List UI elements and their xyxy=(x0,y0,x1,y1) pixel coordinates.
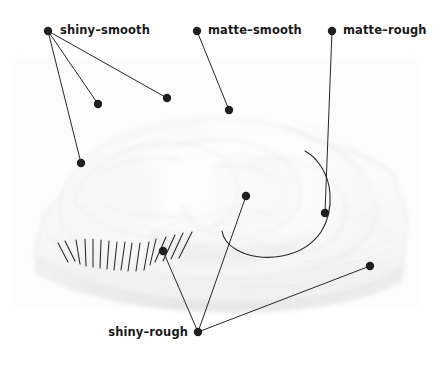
label-matte-rough: matte–rough xyxy=(343,25,427,37)
label-matte-smooth: matte–smooth xyxy=(208,25,302,37)
annotated-photo-figure: shiny–smooth matte–smooth matte–rough sh… xyxy=(0,0,440,368)
background-photograph xyxy=(0,0,440,368)
label-shiny-smooth: shiny–smooth xyxy=(60,25,150,37)
label-shiny-rough: shiny–rough xyxy=(108,327,188,339)
